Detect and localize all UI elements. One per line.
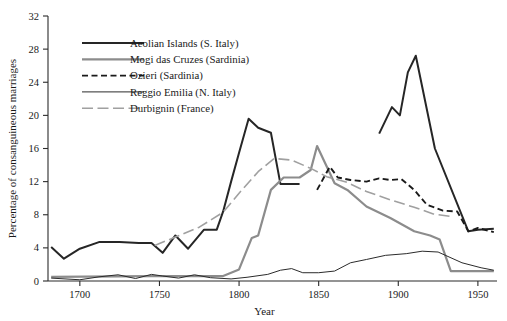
y-axis-tick-label: 4 xyxy=(34,242,40,253)
legend-label-2: Mogi das Cruzes (Sardinia) xyxy=(130,53,249,66)
y-axis-tick-label: 32 xyxy=(29,11,40,22)
axes: 048121620242832170017501800185019001950 xyxy=(29,11,498,300)
y-axis-tick-label: 0 xyxy=(34,276,39,287)
y-axis-tick-label: 20 xyxy=(29,110,40,121)
x-axis-tick-label: 1950 xyxy=(467,289,488,300)
x-axis-title: Year xyxy=(254,305,275,317)
x-axis-tick-label: 1750 xyxy=(149,289,170,300)
data-series xyxy=(51,56,494,280)
legend-label-1: Aeolian Islands (S. Italy) xyxy=(130,37,239,50)
y-axis-tick-label: 12 xyxy=(29,176,40,187)
y-axis-tick-label: 28 xyxy=(29,44,40,55)
x-axis-tick-label: 1800 xyxy=(229,289,250,300)
legend-label-3: Ozieri (Sardinia) xyxy=(130,69,203,82)
y-axis-tick-label: 16 xyxy=(29,143,40,154)
series-line-aeolian-islands-s-italy-segment-2 xyxy=(379,56,494,232)
x-axis-tick-label: 1850 xyxy=(308,289,329,300)
series-line-ozieri-sardinia xyxy=(317,167,494,232)
legend-label-5: Durbignin (France) xyxy=(130,102,214,115)
chart-canvas: 048121620242832170017501800185019001950 … xyxy=(0,0,507,321)
series-line-durbignin-france xyxy=(155,158,451,245)
y-axis-title: Percentage of consanguineous marriages xyxy=(6,59,18,238)
chart-legend: Aeolian Islands (S. Italy)Mogi das Cruze… xyxy=(82,37,249,115)
x-axis-tick-label: 1900 xyxy=(388,289,409,300)
x-axis-tick-label: 1700 xyxy=(69,289,90,300)
legend-label-4: Reggio Emilia (N. Italy) xyxy=(130,86,236,99)
y-axis-tick-label: 8 xyxy=(34,209,39,220)
consanguinity-line-chart: 048121620242832170017501800185019001950 … xyxy=(0,0,507,321)
y-axis-tick-label: 24 xyxy=(29,77,40,88)
